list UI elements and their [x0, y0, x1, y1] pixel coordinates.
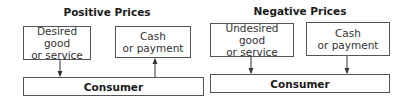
arrowhead-down-icon — [58, 71, 63, 77]
arrowhead-down-icon — [345, 68, 350, 74]
arrowhead-up-icon — [153, 58, 158, 64]
arrowhead-down-icon — [249, 68, 254, 74]
flow-arrows — [0, 0, 411, 101]
